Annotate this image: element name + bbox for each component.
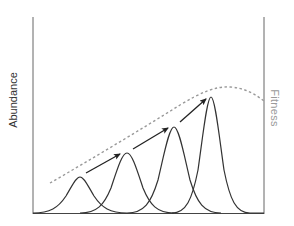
fitness-axis-label: Fitness [269,89,281,127]
arrow-1-to-2 [86,154,120,173]
abundance-axis-label: Abundance [7,72,19,128]
population-curve-4 [172,97,264,213]
evolution-diagram [0,0,294,226]
population-curve-3 [127,127,221,213]
population-curve-2 [80,153,174,213]
